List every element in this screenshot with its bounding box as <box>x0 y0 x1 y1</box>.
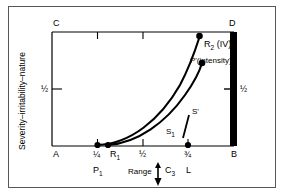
marker-r1 <box>105 142 111 148</box>
marker-l <box>185 142 191 148</box>
label-r2-subscript: 2 <box>211 44 215 51</box>
label-s-prime: S' <box>192 108 199 116</box>
top-ticks <box>98 32 144 39</box>
y-tick-label-left-half: ½ <box>41 85 48 94</box>
label-c3: C3 <box>165 166 175 177</box>
x-tick-label-half: ½ <box>139 150 146 159</box>
x-tick-label-quarter: ¼ <box>93 150 100 159</box>
corner-label-d: D <box>229 19 236 28</box>
curve-p-prime <box>108 63 202 145</box>
segment-s1-sprime <box>183 115 189 138</box>
label-r1: R1 <box>110 150 120 161</box>
marker-r2 <box>196 33 203 40</box>
label-p1: P1 <box>93 166 103 177</box>
label-range: Range <box>128 168 152 176</box>
corner-label-b: B <box>231 150 237 159</box>
label-c3-subscript: 3 <box>172 170 176 177</box>
label-l: L <box>186 166 191 175</box>
corner-label-c: C <box>53 19 60 28</box>
range-arrow-icon <box>155 162 162 186</box>
label-r1-subscript: 1 <box>117 154 121 161</box>
label-r2-paren: (IV) <box>217 39 232 49</box>
label-p1-subscript: 1 <box>99 170 103 177</box>
label-s1: S1 <box>166 128 175 138</box>
curve-r2 <box>98 37 200 145</box>
label-p-prime: P'(intensity) <box>190 57 232 65</box>
y-tick-label-right-half: ½ <box>240 85 247 94</box>
label-r2: R2 (IV) <box>204 40 231 51</box>
marker-p1 <box>94 142 100 148</box>
figure-root: Severity–irritability–nature <box>0 0 286 196</box>
corner-label-a: A <box>53 150 59 159</box>
label-s1-subscript: 1 <box>171 131 175 138</box>
x-tick-label-threequarter: ¾ <box>184 150 191 159</box>
